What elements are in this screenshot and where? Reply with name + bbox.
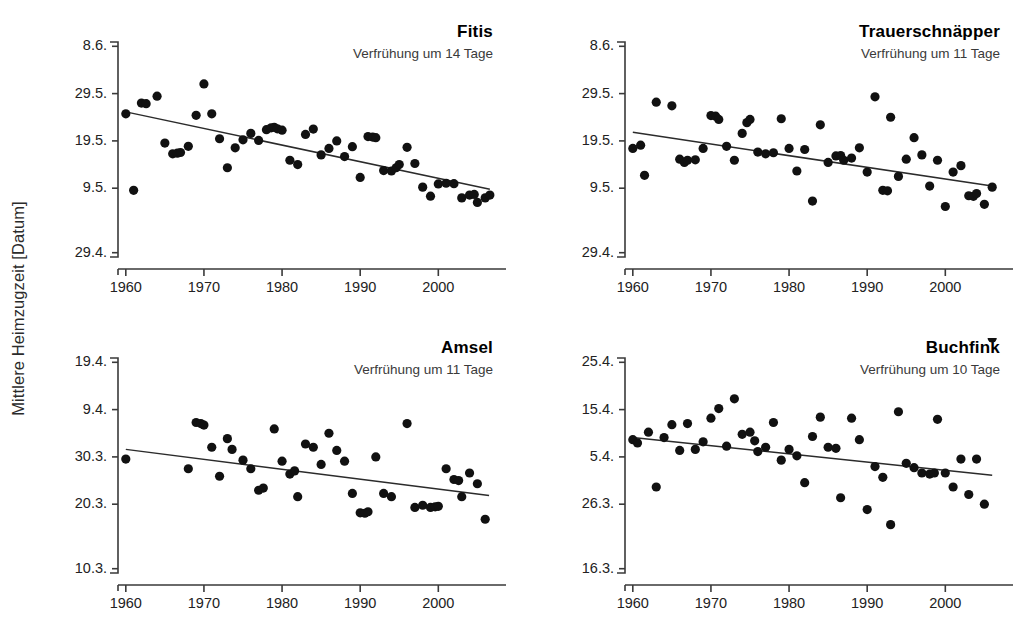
data-point [886, 113, 895, 122]
data-point [769, 418, 778, 427]
data-point [402, 143, 411, 152]
data-point [800, 478, 809, 487]
data-point [667, 420, 676, 429]
data-point [722, 142, 731, 151]
data-point [847, 154, 856, 163]
data-point [285, 156, 294, 165]
data-point [870, 462, 879, 471]
data-point [675, 446, 684, 455]
data-point [878, 473, 887, 482]
data-point [410, 503, 419, 512]
data-point [470, 190, 479, 199]
data-point [363, 507, 372, 516]
data-point [863, 167, 872, 176]
y-axis-spine [617, 42, 625, 257]
scatter-series [121, 79, 494, 207]
x-axis-spine [118, 585, 506, 591]
data-point [808, 197, 817, 206]
plot-area [565, 338, 1013, 638]
data-point [949, 482, 958, 491]
data-point [855, 143, 864, 152]
data-point [317, 150, 326, 159]
data-point [449, 179, 458, 188]
data-point [402, 419, 411, 428]
data-point [644, 428, 653, 437]
data-point [784, 144, 793, 153]
data-point [457, 193, 466, 202]
panel-buchfink: BuchfinkVerfrühung um 10 Tage25.4.15.4.5… [565, 338, 1013, 638]
data-point [485, 190, 494, 199]
data-point [902, 459, 911, 468]
data-point [199, 420, 208, 429]
data-point [434, 502, 443, 511]
plot-area [58, 22, 506, 322]
data-point [293, 160, 302, 169]
data-point [293, 492, 302, 501]
data-point [956, 454, 965, 463]
data-point [972, 454, 981, 463]
data-point [231, 143, 240, 152]
figure-panel-grid: Mittlere Heimzugzeit [Datum] FitisVerfrü… [0, 0, 1014, 638]
data-point [481, 515, 490, 524]
data-point [902, 155, 911, 164]
data-point [706, 414, 715, 423]
data-point [949, 167, 958, 176]
data-point [988, 183, 997, 192]
data-point [816, 413, 825, 422]
data-point [246, 129, 255, 138]
data-point [473, 198, 482, 207]
data-point [465, 468, 474, 477]
data-point [753, 147, 762, 156]
data-point [964, 490, 973, 499]
data-point [909, 463, 918, 472]
data-point [184, 464, 193, 473]
trend-line [633, 438, 992, 476]
x-axis-spine [625, 585, 1013, 591]
data-point [792, 166, 801, 175]
x-axis-spine [625, 269, 1013, 275]
y-axis-spine [617, 358, 625, 573]
data-point [207, 443, 216, 452]
data-point [290, 466, 299, 475]
data-point [738, 129, 747, 138]
data-point [246, 464, 255, 473]
data-point [426, 192, 435, 201]
data-point [227, 445, 236, 454]
plot-area [58, 338, 506, 638]
data-point [980, 200, 989, 209]
data-point [930, 468, 939, 477]
data-point [714, 404, 723, 413]
data-point [254, 136, 263, 145]
data-point [800, 145, 809, 154]
data-point [633, 438, 642, 447]
data-point [831, 444, 840, 453]
data-point [121, 109, 130, 118]
data-point [356, 173, 365, 182]
data-point [750, 436, 759, 445]
data-point [792, 451, 801, 460]
y-axis-spine [110, 358, 118, 573]
data-point [277, 126, 286, 135]
data-point [434, 179, 443, 188]
data-point [941, 202, 950, 211]
data-point [883, 186, 892, 195]
data-point [324, 144, 333, 153]
data-point [980, 500, 989, 509]
data-point [824, 443, 833, 452]
data-point [753, 447, 762, 456]
data-point [418, 183, 427, 192]
data-point [714, 115, 723, 124]
data-point [691, 155, 700, 164]
data-point [317, 460, 326, 469]
data-point [309, 124, 318, 133]
data-point [121, 454, 130, 463]
data-point [839, 156, 848, 165]
y-axis-label: Mittlere Heimzugzeit [Datum] [9, 107, 28, 511]
data-point [259, 483, 268, 492]
data-point [340, 152, 349, 161]
data-point [925, 181, 934, 190]
data-point [301, 130, 310, 139]
data-point [223, 163, 232, 172]
data-point [332, 136, 341, 145]
data-point [215, 134, 224, 143]
